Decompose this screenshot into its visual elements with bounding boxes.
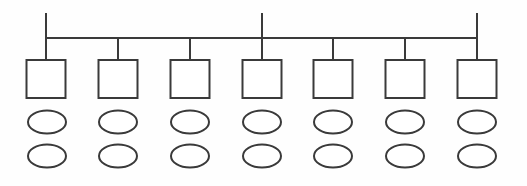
- diagram-svg: [0, 0, 527, 186]
- ellipse-node-row-2: [28, 145, 496, 168]
- square-node-2[interactable]: [99, 60, 138, 98]
- ellipse-node-r1-c3[interactable]: [171, 111, 209, 134]
- drop-stems-group: [46, 38, 477, 60]
- diagram-canvas: [0, 0, 527, 186]
- square-node-1[interactable]: [27, 60, 66, 98]
- square-node-6[interactable]: [386, 60, 425, 98]
- ellipse-node-r2-c6[interactable]: [386, 145, 424, 168]
- square-node-4[interactable]: [243, 60, 282, 98]
- ellipse-node-r1-c6[interactable]: [386, 111, 424, 134]
- ellipse-node-r2-c4[interactable]: [243, 145, 281, 168]
- ellipse-node-r1-c5[interactable]: [314, 111, 352, 134]
- ellipse-node-r2-c2[interactable]: [99, 145, 137, 168]
- ellipse-node-r1-c2[interactable]: [99, 111, 137, 134]
- ellipse-node-r2-c1[interactable]: [28, 145, 66, 168]
- uplink-stems-group: [46, 13, 477, 38]
- square-node-7[interactable]: [458, 60, 497, 98]
- ellipse-node-r2-c3[interactable]: [171, 145, 209, 168]
- ellipse-node-r1-c7[interactable]: [458, 111, 496, 134]
- ellipse-node-r1-c4[interactable]: [243, 111, 281, 134]
- square-node-row: [27, 60, 497, 98]
- square-node-5[interactable]: [314, 60, 353, 98]
- ellipse-node-r2-c7[interactable]: [458, 145, 496, 168]
- ellipse-node-row-1: [28, 111, 496, 134]
- ellipse-node-r1-c1[interactable]: [28, 111, 66, 134]
- square-node-3[interactable]: [171, 60, 210, 98]
- ellipse-node-r2-c5[interactable]: [314, 145, 352, 168]
